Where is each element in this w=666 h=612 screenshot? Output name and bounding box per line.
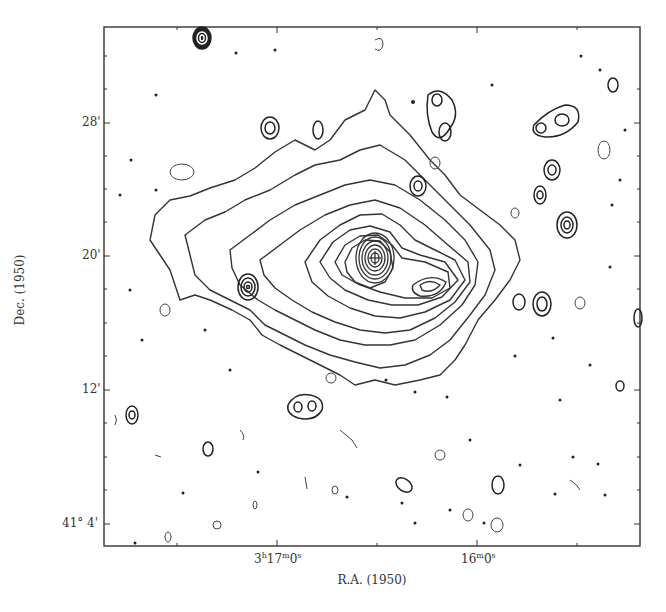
xtick-17-msup: m <box>282 551 290 560</box>
noise-contours <box>115 38 610 542</box>
xtick-16m0s: 16m0s <box>461 551 496 566</box>
ytick-4: 41° 4' <box>62 516 98 530</box>
contour-map <box>0 0 666 612</box>
compact-sources <box>126 27 642 495</box>
central-peak <box>356 233 394 283</box>
diffuse-contours <box>150 90 520 385</box>
xtick-16-ssup: s <box>492 551 496 560</box>
x-ticks <box>177 27 577 546</box>
y-axis-label: Dec. (1950) <box>13 255 27 326</box>
ytick-12: 12' <box>82 382 101 396</box>
xtick-16-m: 16 <box>461 552 476 566</box>
x-axis-label: R.A. (1950) <box>337 573 406 587</box>
noise-dots <box>119 49 627 545</box>
xtick-17-m: 17 <box>267 552 282 566</box>
xtick-16-msup: m <box>476 551 484 560</box>
ytick-20: 20' <box>82 248 101 262</box>
xtick-17-h: 3 <box>254 552 262 566</box>
xtick-17-ssup: s <box>297 551 301 560</box>
xtick-3h17m0s: 3h17m0s <box>254 551 301 566</box>
xtick-16-s: 0 <box>484 552 492 566</box>
ytick-28: 28' <box>82 115 101 129</box>
